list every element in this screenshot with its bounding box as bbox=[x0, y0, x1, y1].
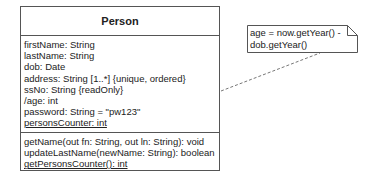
class-box-person[interactable]: Person firstName: String lastName: Strin… bbox=[20, 6, 220, 171]
attributes-compartment: firstName: String lastName: String dob: … bbox=[21, 36, 219, 133]
attribute: password: String = "pw123" bbox=[24, 106, 216, 117]
operation: getName(out fn: String, out ln: String):… bbox=[24, 136, 216, 147]
attribute: ssNo: String {readOnly} bbox=[24, 84, 216, 95]
note-box[interactable]: age = now.getYear() - dob.getYear() bbox=[247, 25, 357, 53]
static-operation: getPersonsCounter(): int bbox=[24, 158, 216, 169]
attribute: firstName: String bbox=[24, 39, 216, 50]
attribute: dob: Date bbox=[24, 61, 216, 72]
note-line: dob.getYear() bbox=[250, 39, 341, 51]
attribute: address: String [1..*] {unique, ordered} bbox=[24, 73, 216, 84]
note-text: age = now.getYear() - dob.getYear() bbox=[250, 27, 341, 50]
attribute: /age: int bbox=[24, 95, 216, 106]
class-name: Person bbox=[21, 7, 219, 36]
attribute: lastName: String bbox=[24, 50, 216, 61]
note-line: age = now.getYear() - bbox=[250, 27, 341, 39]
operation: updateLastName(newName: String): boolean bbox=[24, 147, 216, 158]
static-attribute: personsCounter: int bbox=[24, 117, 216, 128]
operations-compartment: getName(out fn: String, out ln: String):… bbox=[21, 133, 219, 173]
